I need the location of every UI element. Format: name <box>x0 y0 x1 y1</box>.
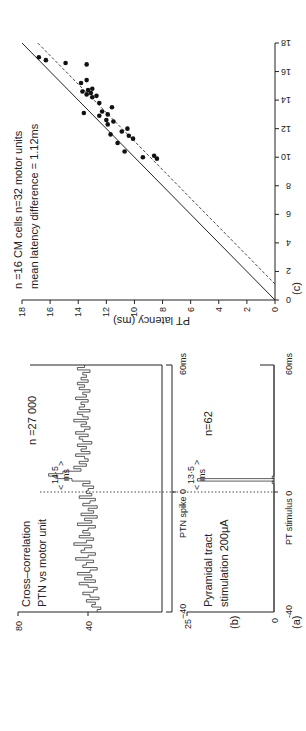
scatter-point <box>84 92 89 97</box>
panel-b-latency-value: 13·5 <box>186 466 196 484</box>
scatter-point <box>79 81 84 86</box>
scatter-point <box>82 111 87 116</box>
panel-a-n-label: n =27 000 <box>26 396 38 445</box>
panel-b-x-end-label: 60ms <box>284 352 294 375</box>
scatter-point <box>94 94 99 99</box>
panel-a-y-tick-label-40: 40 <box>84 621 94 631</box>
scatter-point <box>127 134 132 139</box>
panel-c-y-tick-label: 18 <box>17 307 27 317</box>
scatter-point <box>44 58 49 63</box>
panel-c-x-tick-label: 6 <box>286 209 291 219</box>
panel-a: (a) 80 40 −40 PTN spike 0 60ms Cross–cor… <box>14 352 302 631</box>
scatter-point <box>80 89 85 94</box>
panel-c-y-tick-label: 8 <box>158 307 168 312</box>
panel-c-x-tick-label: 18 <box>281 38 291 48</box>
panel-a-latency-unit: ms <box>61 469 71 481</box>
panel-b-left-arrow-icon: < <box>192 485 202 490</box>
panel-a-x-start-label: −40 <box>178 604 188 619</box>
panel-b-x-zero-label: PT stimulus 0 <box>284 491 294 545</box>
panel-c-x-tick-label: 16 <box>281 67 291 77</box>
panel-c-y-tick-label: 0 <box>270 307 280 312</box>
scatter-point <box>63 61 68 66</box>
panel-b-n-label: n=62 <box>202 411 214 436</box>
panel-c-x-tick-label: 10 <box>281 152 291 162</box>
panel-b-title-line2: stimulation 200μA <box>218 519 230 607</box>
panel-c-scatter-points <box>37 55 160 161</box>
panel-b-latency-unit: ms <box>197 469 207 481</box>
figure-frame: (a) 80 40 −40 PTN spike 0 60ms Cross–cor… <box>0 0 306 731</box>
scatter-point <box>115 141 120 146</box>
panel-c-x-tick-label: 4 <box>286 238 291 248</box>
panel-c-y-tick-label: 16 <box>45 307 55 317</box>
panel-b: 25 0 -40 PT stimulus 0 60ms Pyramidal tr… <box>183 352 294 629</box>
panel-c-x-tick-label: 14 <box>281 95 291 105</box>
panel-a-title-line2: PTN vs motor unit <box>36 519 48 607</box>
panel-c-y-tick-label: 2 <box>242 307 252 312</box>
panel-c-y-tick-label: 12 <box>101 307 111 317</box>
scatter-point <box>104 118 109 123</box>
scatter-point <box>122 149 127 154</box>
panel-a-latency-value: 14·5 <box>50 466 60 484</box>
panel-c-identity-line <box>22 43 275 300</box>
scatter-point <box>90 95 95 100</box>
panel-c-x-tick-label: 12 <box>281 124 291 134</box>
scatter-point <box>125 126 130 131</box>
scatter-point <box>84 62 89 67</box>
panel-c-label: (c) <box>290 282 302 295</box>
scatter-point <box>105 122 110 127</box>
scatter-point <box>111 119 116 124</box>
scatter-point <box>105 112 110 117</box>
scatter-point <box>84 78 89 83</box>
panel-a-x-end-label: 60ms <box>178 352 188 375</box>
scatter-point <box>100 109 105 114</box>
panel-c-annotation-line1: n =16 CM cells n=32 motor units <box>12 130 24 289</box>
panel-a-y-tick-label-80: 80 <box>14 621 24 631</box>
panel-b-label: (b) <box>228 616 240 629</box>
figure-canvas: (a) 80 40 −40 PTN spike 0 60ms Cross–cor… <box>0 0 306 731</box>
scatter-point <box>110 105 115 110</box>
scatter-point <box>119 129 124 134</box>
panel-b-y-tick-label-0: 0 <box>270 618 280 623</box>
panel-c-annotation-line2: mean latency difference = 1.12ms <box>28 123 40 289</box>
panel-c-y-tick-label: 6 <box>186 307 196 312</box>
scatter-point <box>152 153 157 158</box>
scatter-point <box>141 155 146 160</box>
scatter-point <box>108 132 113 137</box>
panel-a-x-zero-label: PTN spike 0 <box>178 489 188 538</box>
scatter-point <box>90 86 95 91</box>
panel-c-x-tick-label: 0 <box>286 295 291 305</box>
panel-c-x-tick-label: 8 <box>286 181 291 191</box>
panel-a-left-arrow-icon: < <box>56 485 66 490</box>
panel-c-y-tick-label: 4 <box>214 307 224 312</box>
panel-c-y-tick-label: 14 <box>73 307 83 317</box>
panel-b-y-tick-label-25: 25 <box>183 619 193 629</box>
panel-c-x-tick-label: 2 <box>286 266 291 276</box>
panel-a-right-arrow-icon: > <box>56 461 66 466</box>
scatter-point <box>37 55 42 60</box>
panel-b-right-arrow-icon: > <box>192 460 202 465</box>
panel-c-y-axis-label: PT latency (ms) <box>113 315 190 327</box>
scatter-point <box>131 136 136 141</box>
scatter-point <box>97 114 102 119</box>
panel-b-title-line1: Pyramidal tract <box>202 534 214 607</box>
panel-b-x-start-label: -40 <box>284 605 294 618</box>
panel-c: (c) 024681012141618024681012141618 PT la… <box>12 38 302 327</box>
scatter-point <box>89 91 94 96</box>
panel-c-offset-line <box>38 43 275 284</box>
panel-a-title-line1: Cross–correlation <box>20 521 32 607</box>
scatter-point <box>97 101 102 106</box>
